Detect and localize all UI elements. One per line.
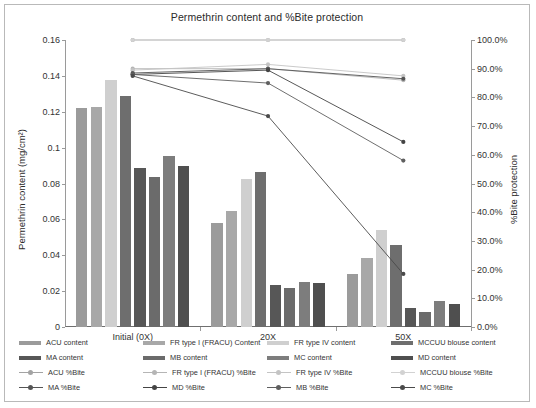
legend-item[interactable]: ACU content xyxy=(19,338,143,347)
legend-item-label: MCCUU blouse %Bite xyxy=(420,368,493,377)
legend-item-label: FR type I (FRACU) Content xyxy=(170,338,260,347)
legend-item[interactable]: MCCUU blouse content xyxy=(391,338,515,347)
data-point-marker xyxy=(401,38,405,42)
legend-item[interactable]: MC %Bite xyxy=(391,383,515,392)
x-axis-tick-mark xyxy=(200,327,201,331)
data-point-marker xyxy=(131,38,135,42)
legend-line-marker-icon xyxy=(267,383,291,392)
y-axis-tick-label: 0.14 xyxy=(42,71,60,81)
x-axis-tick-mark xyxy=(471,327,472,331)
chart-title: Permethrin content and %Bite protection xyxy=(5,11,529,23)
line-series xyxy=(131,74,406,276)
data-point-marker xyxy=(401,140,405,144)
secondary-y-axis-tick-label: 70.0% xyxy=(477,121,503,131)
y-axis-tick-label: 0.12 xyxy=(42,107,60,117)
legend-item-label: MA content xyxy=(46,353,83,362)
line-path xyxy=(133,70,404,142)
secondary-y-axis-tick-mark xyxy=(471,184,475,185)
legend-item[interactable]: MB %Bite xyxy=(267,383,391,392)
legend-line-marker-icon xyxy=(19,368,43,377)
legend-item[interactable]: ACU %Bite xyxy=(19,368,143,377)
data-point-marker xyxy=(266,81,270,85)
data-point-marker xyxy=(266,62,270,66)
chart-frame: Permethrin content and %Bite protection … xyxy=(4,4,530,402)
legend-item[interactable]: FR type I (FRACU) %Bite xyxy=(143,368,267,377)
secondary-y-axis-tick-label: 30.0% xyxy=(477,236,503,246)
legend-item[interactable]: FR type IV %Bite xyxy=(267,368,391,377)
data-point-marker xyxy=(401,158,405,162)
legend-swatch-icon xyxy=(267,356,289,360)
data-point-marker xyxy=(266,38,270,42)
y-axis-tick-label: 0.08 xyxy=(42,179,60,189)
y-axis-tick-label: 0.04 xyxy=(42,250,60,260)
data-point-marker xyxy=(266,68,270,72)
legend-line-marker-icon xyxy=(143,383,167,392)
legend-line-marker-icon xyxy=(391,368,415,377)
legend-swatch-icon xyxy=(143,341,165,345)
legend-item-label: ACU content xyxy=(46,338,88,347)
secondary-y-axis-tick-mark xyxy=(471,155,475,156)
legend-line-marker-icon xyxy=(19,383,43,392)
legend-item[interactable]: FR type IV content xyxy=(267,338,391,347)
legend-item[interactable]: MC content xyxy=(267,353,391,362)
secondary-y-axis-tick-label: 90.0% xyxy=(477,64,503,74)
legend-item[interactable]: MA content xyxy=(19,353,143,362)
line-path xyxy=(133,76,404,274)
y-axis-tick-label: 0.1 xyxy=(47,143,60,153)
secondary-y-axis-tick-label: 10.0% xyxy=(477,293,503,303)
legend-row: MA %BiteMD %BiteMB %BiteMC %Bite xyxy=(19,380,517,395)
secondary-y-axis-tick-mark xyxy=(471,212,475,213)
y-axis-tick-label: 0.02 xyxy=(42,286,60,296)
legend-swatch-icon xyxy=(19,341,41,345)
legend-line-marker-icon xyxy=(143,368,167,377)
secondary-y-axis-tick-mark xyxy=(471,298,475,299)
legend-item-label: ACU %Bite xyxy=(48,368,85,377)
legend-item[interactable]: MD content xyxy=(391,353,515,362)
data-point-marker xyxy=(266,114,270,118)
x-axis-tick-mark xyxy=(336,327,337,331)
legend-item[interactable]: MB content xyxy=(143,353,267,362)
secondary-y-axis-tick-mark xyxy=(471,40,475,41)
legend-item-label: MA %Bite xyxy=(48,383,80,392)
legend-row: MA contentMB contentMC contentMD content xyxy=(19,350,517,365)
legend-swatch-icon xyxy=(267,341,289,345)
secondary-y-axis-label: %Bite protection xyxy=(508,109,519,269)
y-axis-tick-label: 0 xyxy=(55,322,60,332)
legend-item-label: FR type IV content xyxy=(294,338,355,347)
secondary-y-axis-tick-label: 20.0% xyxy=(477,265,503,275)
legend-row: ACU contentFR type I (FRACU) ContentFR t… xyxy=(19,335,517,350)
y-axis-tick-mark xyxy=(62,327,65,328)
secondary-y-axis-tick-mark xyxy=(471,126,475,127)
legend-swatch-icon xyxy=(19,356,41,360)
data-point-marker xyxy=(401,77,405,81)
data-point-marker xyxy=(401,272,405,276)
legend-item-label: FR type I (FRACU) %Bite xyxy=(172,368,256,377)
legend-line-marker-icon xyxy=(391,383,415,392)
legend-row: ACU %BiteFR type I (FRACU) %BiteFR type … xyxy=(19,365,517,380)
secondary-y-axis-tick-label: 40.0% xyxy=(477,207,503,217)
secondary-y-axis-tick-label: 60.0% xyxy=(477,150,503,160)
legend-item[interactable]: MA %Bite xyxy=(19,383,143,392)
legend-item-label: MB %Bite xyxy=(296,383,328,392)
legend-item-label: FR type IV %Bite xyxy=(296,368,352,377)
legend-item[interactable]: MCCUU blouse %Bite xyxy=(391,368,515,377)
secondary-y-axis-tick-mark xyxy=(471,241,475,242)
y-axis-label: Permethrin content (mg/cm²) xyxy=(16,89,27,289)
legend-item-label: MD content xyxy=(418,353,456,362)
legend-item[interactable]: FR type I (FRACU) Content xyxy=(143,338,267,347)
legend-item-label: MD %Bite xyxy=(172,383,205,392)
line-series xyxy=(131,68,406,144)
legend-line-marker-icon xyxy=(267,368,291,377)
data-point-marker xyxy=(131,74,135,78)
line-series xyxy=(131,38,406,42)
secondary-y-axis-tick-label: 80.0% xyxy=(477,92,503,102)
y-axis-tick-label: 0.06 xyxy=(42,214,60,224)
legend-item-label: MC %Bite xyxy=(420,383,453,392)
secondary-y-axis-tick-mark xyxy=(471,270,475,271)
plot-area: 00.020.040.060.080.10.120.140.16 0.0%10.… xyxy=(65,40,471,327)
secondary-y-axis-tick-label: 100.0% xyxy=(477,35,508,45)
secondary-y-axis-tick-mark xyxy=(471,69,475,70)
legend-swatch-icon xyxy=(391,356,413,360)
y-axis-tick-label: 0.16 xyxy=(42,35,60,45)
legend-item[interactable]: MD %Bite xyxy=(143,383,267,392)
